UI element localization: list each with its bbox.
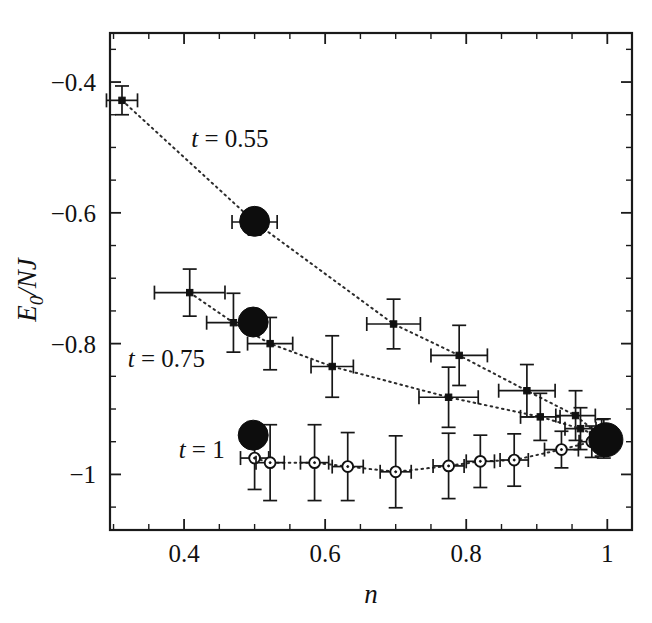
y-axis-title: E0/NJ (12, 256, 47, 323)
data-point-marker (572, 412, 578, 418)
x-tick-label: 0.6 (310, 540, 341, 567)
data-point-marker (445, 394, 451, 400)
data-point-center (479, 460, 481, 462)
x-tick-label: 1 (601, 540, 614, 567)
series-2 (154, 269, 613, 456)
y-tick-label: −0.6 (51, 200, 96, 227)
data-point-center (395, 471, 397, 473)
data-point-center (269, 462, 271, 464)
y-tick-label: −1 (69, 461, 96, 488)
data-point-marker (187, 289, 193, 295)
data-point-center (448, 465, 450, 467)
data-point-marker (329, 363, 335, 369)
data-point-marker (524, 388, 530, 394)
series-connector-line (255, 442, 592, 472)
y-tick-label: −0.8 (51, 331, 96, 358)
x-tick-label: 0.4 (168, 540, 200, 567)
data-point-marker (230, 319, 236, 325)
data-point-marker (390, 321, 396, 327)
series-annotation: t = 0.75 (128, 345, 205, 372)
highlight-point (240, 206, 270, 236)
data-point-center (314, 462, 316, 464)
data-point-center (513, 459, 515, 461)
series-annotations: t = 0.55t = 0.75t = 1 (128, 125, 269, 463)
series-annotation: t = 0.55 (191, 125, 268, 152)
highlight-point (238, 420, 268, 450)
data-point-marker (267, 340, 273, 346)
data-point-marker (456, 352, 462, 358)
figure-page: 0.40.60.81 −0.4−0.6−0.8−1 t = 0.55t = 0.… (0, 0, 652, 623)
x-axis-title: n (364, 579, 378, 609)
series-1 (106, 86, 617, 458)
data-point-marker (537, 414, 543, 420)
x-tick-labels: 0.40.60.81 (168, 540, 613, 567)
data-point-marker (119, 97, 125, 103)
y-tick-labels: −0.4−0.6−0.8−1 (51, 69, 97, 488)
highlight-point (589, 423, 623, 457)
y-tick-label: −0.4 (51, 69, 97, 96)
x-tick-label: 0.8 (451, 540, 482, 567)
data-point-center (560, 449, 562, 451)
data-point-center (347, 466, 349, 468)
highlight-point (238, 307, 268, 337)
series-3 (241, 425, 605, 508)
energy-vs-density-plot: 0.40.60.81 −0.4−0.6−0.8−1 t = 0.55t = 0.… (0, 0, 652, 623)
data-point-marker (577, 425, 583, 431)
series-annotation: t = 1 (179, 436, 225, 463)
highlight-points-group (238, 206, 623, 456)
